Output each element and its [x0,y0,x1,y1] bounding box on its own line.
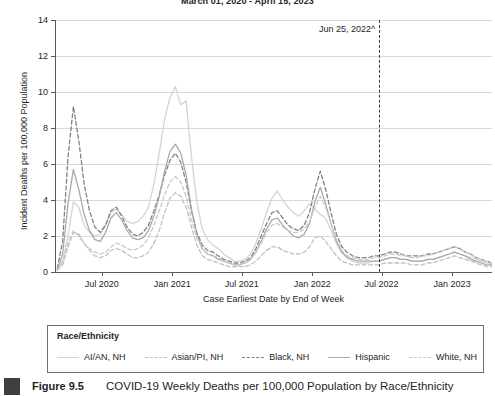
legend-swatch-icon [242,357,264,358]
x-tick-mark [382,272,383,276]
series-line [57,87,492,271]
legend-swatch-icon [145,357,167,358]
legend-label: AI/AN, NH [84,352,126,362]
figure-number: Figure 9.5 [32,378,84,395]
y-tick-label: 6 [43,159,48,169]
legend-swatch-icon [409,357,431,358]
legend-title: Race/Ethnicity [57,331,119,341]
x-tick-mark [452,272,453,276]
legend-label: Black, NH [269,352,309,362]
x-tick-label: Jul 2022 [365,279,399,289]
y-tick-label: 14 [38,15,48,25]
x-tick-mark [312,272,313,276]
legend-items: AI/AN, NHAsian/PI, NHBlack, NHHispanicWh… [57,352,477,362]
x-tick-label: Jul 2021 [225,279,259,289]
legend-swatch-icon [57,357,79,358]
figure-caption-text: COVID-19 Weekly Deaths per 100,000 Popul… [106,378,454,395]
x-axis-ticks: Jul 2020Jan 2021Jul 2021Jan 2022Jul 2022… [55,272,492,296]
legend-item[interactable]: Asian/PI, NH [145,352,224,362]
legend-label: Hispanic [355,352,390,362]
series-line [57,106,492,268]
x-tick-label: Jul 2020 [85,279,119,289]
y-axis-line [55,20,56,272]
caption-marker-icon [4,378,20,395]
series-line [57,193,492,270]
y-tick-label: 4 [43,195,48,205]
x-tick-label: Jan 2021 [154,279,191,289]
x-tick-label: Jan 2022 [294,279,331,289]
series-lines [55,20,492,272]
y-tick-label: 10 [38,87,48,97]
legend-label: Asian/PI, NH [172,352,224,362]
x-tick-mark [242,272,243,276]
plot-wrapper: Incident Deaths per 100,000 Population 0… [0,0,495,310]
legend-swatch-icon [328,357,350,358]
figure-container: March 01, 2020 - April 15, 2023 Incident… [0,0,495,396]
y-tick-label: 2 [43,231,48,241]
legend-label: White, NH [436,352,477,362]
annotation-label: Jun 25, 2022^ [319,24,375,34]
x-tick-label: Jan 2023 [434,279,471,289]
legend-item[interactable]: Hispanic [328,352,390,362]
y-tick-label: 12 [38,51,48,61]
x-axis-title: Case Earliest Date by End of Week [55,294,492,304]
y-axis-title: Incident Deaths per 100,000 Population [19,31,29,271]
legend-item[interactable]: White, NH [409,352,477,362]
x-tick-mark [102,272,103,276]
series-line [57,177,492,271]
legend-item[interactable]: Black, NH [242,352,309,362]
legend: Race/Ethnicity AI/AN, NHAsian/PI, NHBlac… [47,325,484,373]
legend-item[interactable]: AI/AN, NH [57,352,126,362]
y-tick-label: 0 [43,267,48,277]
figure-caption: Figure 9.5 COVID-19 Weekly Deaths per 10… [0,378,495,396]
annotation-vertical-line [379,20,380,272]
y-tick-label: 8 [43,123,48,133]
x-tick-mark [172,272,173,276]
